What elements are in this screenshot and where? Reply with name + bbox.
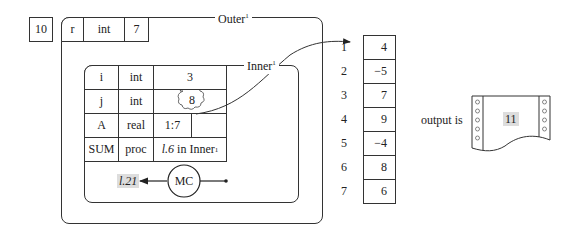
inner-row-A-bounds: 1:7 <box>153 113 192 138</box>
inner-row-A-pointer <box>191 113 227 138</box>
free-variable-cell: 10 <box>29 17 53 42</box>
output-label: output is <box>421 113 463 128</box>
inner-row-j-name: j <box>84 89 119 114</box>
array-index: 6 <box>336 160 352 175</box>
array-cell: 8 <box>363 155 396 180</box>
outer-frame-title: Outer1 <box>215 12 252 27</box>
outer-var-name: r <box>61 17 84 42</box>
inner-row-A-type: real <box>118 113 154 138</box>
array-index: 1 <box>336 40 352 55</box>
array-cell: 9 <box>363 107 396 132</box>
mc-label: MC <box>168 174 200 189</box>
inner-frame-title: Inner1 <box>244 59 279 74</box>
array-cell: 6 <box>363 179 396 204</box>
inner-row-i-name: i <box>84 65 119 90</box>
inner-row-j-value-text: 8 <box>185 93 199 108</box>
array-index: 7 <box>336 184 352 199</box>
inner-row-SUM-type: proc <box>118 137 154 162</box>
inner-row-j-type: int <box>118 89 154 114</box>
array-index: 5 <box>336 136 352 151</box>
output-value: 11 <box>503 112 519 127</box>
outer-var-value: 7 <box>124 17 149 42</box>
array-index: 2 <box>336 64 352 79</box>
outer-var-type: int <box>83 17 125 42</box>
array-index: 4 <box>336 112 352 127</box>
array-cell: −4 <box>363 131 396 156</box>
return-line-label: l.21 <box>117 174 139 189</box>
array-cell: 4 <box>363 35 396 60</box>
inner-row-A-name: A <box>84 113 119 138</box>
inner-row-i-value: 3 <box>153 65 227 90</box>
array-cell: −5 <box>363 59 396 84</box>
array-index: 3 <box>336 88 352 103</box>
inner-row-SUM-value: l.6 in Inner1 <box>153 137 227 162</box>
inner-row-i-type: int <box>118 65 154 90</box>
free-variable-value: 10 <box>35 22 47 37</box>
inner-row-SUM-name: SUM <box>84 137 119 162</box>
array-cell: 7 <box>363 83 396 108</box>
